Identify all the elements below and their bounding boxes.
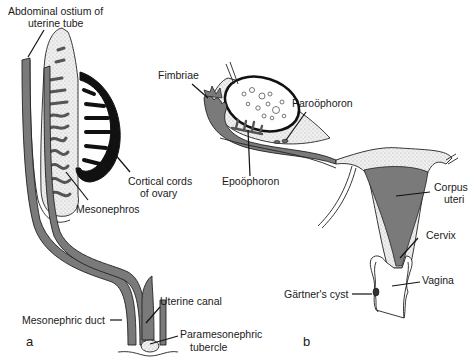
label-corpus-uteri-1: Corpus (434, 181, 468, 193)
paramesonephric-duct (22, 58, 136, 345)
label-epoophoron: Epoöphoron (222, 175, 279, 187)
panel-label-b: b (303, 334, 310, 349)
label-corpus-uteri-2: uteri (444, 193, 464, 205)
round-ligament (318, 166, 356, 228)
uterine-canal (142, 276, 154, 340)
label-tubercle-1: Paramesonephric (180, 328, 262, 340)
label-abdominal-ostium-2: uterine tube (28, 17, 84, 29)
label-mesonephros: Mesonephros (76, 203, 140, 215)
embryology-diagram: Abdominal ostium of uterine tube Cortica… (0, 0, 474, 361)
leader-abdominal-ostium (28, 30, 44, 57)
label-uterine-canal: Uterine canal (160, 295, 222, 307)
label-tubercle-2: tubercle (190, 341, 228, 353)
label-cortical-cords-2: of ovary (140, 187, 178, 199)
label-abdominal-ostium-1: Abdominal ostium of (8, 5, 103, 17)
label-cortical-cords-1: Cortical cords (128, 175, 192, 187)
panel-label-a: a (26, 334, 34, 349)
label-vagina: Vagina (422, 274, 454, 286)
gartners-cyst (373, 288, 379, 296)
label-fimbriae: Fimbriae (158, 69, 199, 81)
label-gartners-cyst: Gärtner's cyst (284, 288, 349, 300)
label-mesonephric-duct: Mesonephric duct (22, 314, 105, 326)
label-cervix: Cervix (426, 229, 457, 241)
label-paroophoron: Paroöphoron (292, 97, 353, 109)
